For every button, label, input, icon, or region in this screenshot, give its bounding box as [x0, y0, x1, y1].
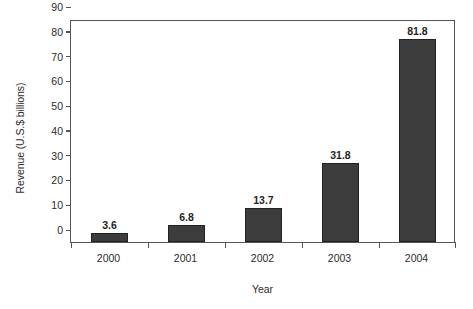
y-axis-tick-label: 50	[51, 100, 63, 112]
x-axis-title: Year	[70, 283, 455, 295]
y-axis-tick-mark	[66, 155, 71, 156]
x-axis-tick-mark	[148, 242, 149, 248]
bar-value-label: 6.8	[179, 211, 194, 223]
x-axis-tick-label: 2004	[405, 252, 428, 264]
y-axis-title: Revenue (U.S.$ billions)	[14, 18, 28, 258]
bar: 6.8	[168, 225, 205, 242]
y-axis-tick-label: 40	[51, 125, 63, 137]
x-axis-tick-label: 2000	[97, 252, 120, 264]
bar: 13.7	[245, 208, 282, 242]
bar-chart-figure: Revenue (U.S.$ billions) 010203040506070…	[0, 0, 473, 309]
y-axis-tick-mark	[66, 205, 71, 206]
bar: 3.6	[91, 233, 128, 242]
bar-value-label: 81.8	[407, 25, 427, 37]
bar-value-label: 31.8	[330, 149, 350, 161]
x-axis-tick-mark	[379, 242, 380, 248]
x-axis-tick-label: 2003	[328, 252, 351, 264]
x-axis-tick-mark	[71, 242, 72, 248]
y-axis-tick-mark	[66, 56, 71, 57]
x-axis-tick-label: 2001	[174, 252, 197, 264]
y-axis-tick-mark	[66, 7, 71, 8]
x-axis-tick-label: 2002	[251, 252, 274, 264]
x-axis-tick-mark	[225, 242, 226, 248]
y-axis-tick-label: 10	[51, 199, 63, 211]
x-axis-tick-mark	[302, 242, 303, 248]
y-axis-tick-label: 0	[57, 224, 63, 236]
y-axis-tick-label: 20	[51, 174, 63, 186]
y-axis-tick-mark	[66, 106, 71, 107]
y-axis-tick-label: 30	[51, 150, 63, 162]
bar-value-label: 3.6	[102, 219, 117, 231]
bar: 31.8	[322, 163, 359, 242]
y-axis-tick-mark	[66, 130, 71, 131]
y-axis-tick-label: 90	[51, 1, 63, 13]
y-axis-tick-label: 70	[51, 51, 63, 63]
y-axis-tick-label: 60	[51, 75, 63, 87]
y-axis-tick-mark	[66, 230, 71, 231]
y-axis-tick-mark	[66, 180, 71, 181]
plot-area: 0102030405060708090 3.66.813.731.881.8	[70, 20, 455, 243]
bar-value-label: 13.7	[253, 194, 273, 206]
y-axis-tick-label: 80	[51, 26, 63, 38]
y-axis-tick-mark	[66, 81, 71, 82]
bar: 81.8	[399, 39, 436, 242]
x-axis-tick-mark	[455, 242, 456, 248]
y-axis-tick-mark	[66, 31, 71, 32]
